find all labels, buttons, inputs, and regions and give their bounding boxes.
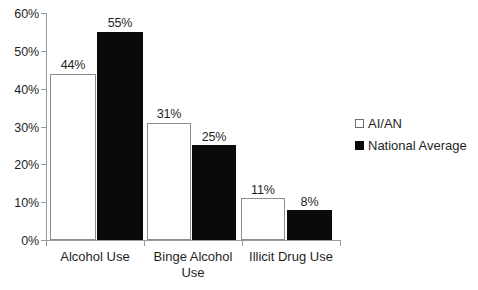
y-tick-label: 40%: [1, 84, 39, 97]
bar-aian-alcohol-use[interactable]: [50, 74, 96, 241]
value-label-national-illicit-drug-use: 8%: [287, 196, 332, 209]
x-axis-line: [46, 240, 341, 241]
bar-national-alcohol-use[interactable]: [97, 32, 143, 240]
y-tick-label: 20%: [1, 159, 39, 172]
value-label-national-alcohol-use: 55%: [97, 17, 143, 30]
bar-aian-binge-alcohol-use[interactable]: [147, 123, 191, 240]
bar-chart: 60% 50% 40% 30% 20% 10% 0%: [0, 0, 478, 290]
legend-swatch-open-square-icon: [355, 119, 364, 128]
x-axis-separator: [144, 240, 145, 246]
legend-label-aian: AI/AN: [368, 117, 402, 130]
legend-swatch-filled-square-icon: [355, 141, 364, 150]
value-label-aian-binge-alcohol-use: 31%: [147, 108, 191, 121]
value-label-aian-alcohol-use: 44%: [50, 59, 96, 72]
bar-national-illicit-drug-use[interactable]: [287, 210, 332, 240]
value-label-aian-illicit-drug-use: 11%: [241, 184, 285, 197]
legend: AI/AN National Average: [355, 112, 467, 156]
legend-label-national-average: National Average: [368, 139, 467, 152]
legend-item-aian[interactable]: AI/AN: [355, 112, 467, 134]
y-tick-label: 0%: [1, 235, 39, 248]
y-tick-label: 50%: [1, 46, 39, 59]
x-axis-label-illicit-drug-use: Illicit Drug Use: [242, 249, 340, 265]
y-tick-label: 10%: [1, 197, 39, 210]
value-label-national-binge-alcohol-use: 25%: [192, 131, 236, 144]
bar-national-binge-alcohol-use[interactable]: [192, 145, 236, 240]
y-tick-label: 30%: [1, 122, 39, 135]
bar-aian-illicit-drug-use[interactable]: [241, 198, 285, 240]
x-axis-separator: [242, 240, 243, 246]
x-axis-label-alcohol-use: Alcohol Use: [46, 249, 144, 265]
x-axis-separator: [46, 240, 47, 246]
x-axis-label-binge-alcohol-use: Binge Alcohol Use: [144, 249, 242, 281]
y-tick-label: 60%: [1, 8, 39, 21]
legend-item-national-average[interactable]: National Average: [355, 134, 467, 156]
x-axis-separator: [340, 240, 341, 246]
